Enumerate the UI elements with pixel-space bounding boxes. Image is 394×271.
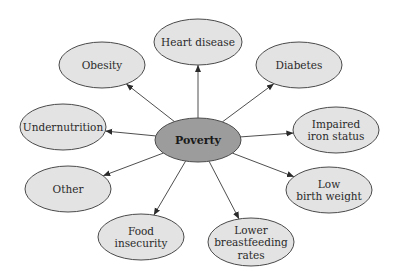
poverty-diagram: Heart diseaseDiabetesImpairediron status… [0, 0, 394, 271]
node-impaired-iron-status: Impairediron status [293, 107, 379, 153]
node-other: Other [25, 166, 111, 212]
node-heart-disease: Heart disease [154, 19, 242, 65]
lower-breastfeeding-rates-label: Lower [234, 224, 268, 236]
low-birth-weight-label: Low [318, 178, 340, 190]
lower-breastfeeding-rates-label: rates [237, 249, 264, 261]
arrow-poverty-to-lower-breastfeeding-rates [209, 161, 239, 219]
node-undernutrition: Undernutrition [20, 104, 106, 150]
arrow-poverty-to-diabetes [222, 84, 273, 122]
arrow-poverty-to-food-insecurity [154, 161, 186, 215]
food-insecurity-label: insecurity [115, 237, 168, 249]
arrow-poverty-to-other [103, 153, 163, 176]
other-label: Other [53, 183, 85, 195]
node-obesity: Obesity [59, 42, 145, 88]
food-insecurity-label: Food [128, 225, 154, 237]
poverty-label: Poverty [175, 134, 222, 147]
diabetes-label: Diabetes [276, 59, 323, 71]
low-birth-weight-label: birth weight [296, 190, 362, 202]
arrow-poverty-to-impaired-iron-status [241, 133, 294, 137]
arrow-poverty-to-undernutrition [105, 131, 155, 136]
impaired-iron-status-label: iron status [307, 130, 364, 142]
obesity-label: Obesity [82, 59, 123, 71]
node-diabetes: Diabetes [256, 42, 342, 88]
node-poverty: Poverty [155, 118, 241, 162]
nodes: Heart diseaseDiabetesImpairediron status… [20, 19, 379, 266]
undernutrition-label: Undernutrition [23, 121, 104, 133]
lower-breastfeeding-rates-label: breastfeeding [214, 236, 288, 248]
arrow-poverty-to-low-birth-weight [232, 153, 294, 176]
node-lower-breastfeeding-rates: Lowerbreastfeedingrates [208, 218, 294, 266]
node-food-insecurity: Foodinsecurity [98, 214, 184, 260]
node-low-birth-weight: Lowbirth weight [286, 167, 372, 213]
heart-disease-label: Heart disease [161, 36, 235, 48]
arrow-poverty-to-obesity [126, 84, 174, 122]
impaired-iron-status-label: Impaired [312, 118, 361, 130]
